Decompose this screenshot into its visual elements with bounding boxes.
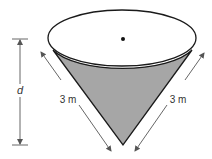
depth-label: d (17, 84, 24, 96)
slant-left-label: 3 m (60, 94, 77, 105)
slant-right-label: 3 m (170, 94, 187, 105)
cone-diagram: d 3 m 3 m (0, 0, 212, 159)
